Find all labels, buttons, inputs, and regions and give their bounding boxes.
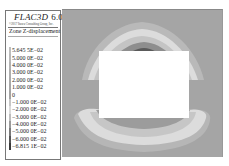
- color-swatch: [9, 114, 11, 121]
- legend-item: 4.000 0E−02: [9, 62, 46, 69]
- legend-item: 5.000 0E−02: [9, 54, 46, 61]
- contour-plot: [62, 9, 223, 157]
- legend-label: 4.000 0E−02: [12, 62, 43, 69]
- legend-item: 1.000 0E−02: [9, 84, 46, 91]
- color-swatch: [9, 69, 11, 76]
- legend-label: −1.000 0E−02: [12, 99, 46, 106]
- color-swatch: [9, 121, 11, 128]
- legend-label: 2.000 0E−02: [12, 77, 43, 84]
- color-swatch: [9, 77, 11, 84]
- legend-item: −4.000 0E−02: [9, 121, 46, 128]
- copyright-text: ©2017 Itasca Consulting Group, Inc.: [9, 22, 53, 26]
- color-swatch: [9, 47, 11, 54]
- legend-label: −5.000 0E−02: [12, 128, 46, 135]
- legend-item: 5.645 5E−02: [9, 47, 46, 54]
- software-title: FLAC3D6.00: [14, 12, 68, 22]
- color-swatch: [9, 128, 11, 135]
- legend-item: −6.000 0E−02: [9, 136, 46, 143]
- color-swatch: [9, 84, 11, 91]
- colorbar-legend: 5.645 5E−025.000 0E−024.000 0E−023.000 0…: [9, 47, 46, 150]
- legend-item: −6.815 1E−02: [9, 143, 46, 150]
- legend-item: 3.000 0E−02: [9, 69, 46, 76]
- legend-item: 0: [9, 91, 46, 98]
- legend-item: 2.000 0E−02: [9, 77, 46, 84]
- color-swatch: [9, 54, 11, 61]
- color-swatch: [9, 136, 11, 143]
- plot-subtitle: Zone Z-displacement: [9, 28, 60, 34]
- legend-label: −4.000 0E−02: [12, 121, 46, 128]
- legend-label: 5.000 0E−02: [12, 55, 43, 62]
- legend-label: −6.815 1E−02: [12, 143, 46, 150]
- legend-label: −3.000 0E−02: [12, 114, 46, 121]
- color-swatch: [9, 106, 11, 113]
- legend-item: −1.000 0E−02: [9, 99, 46, 106]
- legend-item: −5.000 0E−02: [9, 128, 46, 135]
- legend-item: −3.000 0E−02: [9, 114, 46, 121]
- legend-label: −6.000 0E−02: [12, 136, 46, 143]
- legend-label: 3.000 0E−02: [12, 69, 43, 76]
- color-swatch: [9, 62, 11, 69]
- legend-label: 0: [12, 92, 15, 99]
- divider: [8, 36, 58, 37]
- legend-label: −2.000 0E−02: [12, 106, 46, 113]
- legend-item: −2.000 0E−02: [9, 106, 46, 113]
- excavation-region: [99, 51, 189, 118]
- contour-graphic: [62, 10, 223, 157]
- color-swatch: [9, 91, 11, 98]
- legend-panel: FLAC3D6.00 ©2017 Itasca Consulting Group…: [5, 10, 61, 160]
- legend-label: 1.000 0E−02: [12, 84, 43, 91]
- color-swatch: [9, 143, 11, 150]
- color-swatch: [9, 99, 11, 106]
- legend-label: 5.645 5E−02: [12, 47, 43, 54]
